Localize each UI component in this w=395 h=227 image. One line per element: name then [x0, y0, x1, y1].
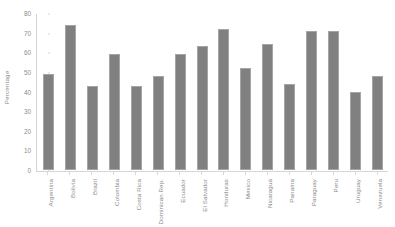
- x-axis-category-label: Paraguay: [311, 179, 317, 206]
- x-axis-tick-slot: [103, 172, 125, 176]
- x-axis-tick-slot: [278, 172, 300, 176]
- bars-layer: [38, 14, 388, 170]
- bar-slot: [126, 14, 148, 170]
- x-axis-tick-slot: [256, 172, 278, 176]
- bar[interactable]: [328, 31, 339, 170]
- x-axis-tick-slot: [213, 172, 235, 176]
- bar-slot: [257, 14, 279, 170]
- x-axis-category-label: Bolivia: [70, 179, 76, 198]
- x-axis-category-labels: ArgentinaBoliviaBrazilColombiaCosta Rica…: [37, 177, 388, 227]
- x-axis-category-label: Uruguay: [355, 179, 361, 203]
- x-axis-label-slot: Dominican Rep.: [147, 177, 169, 227]
- bar-slot: [60, 14, 82, 170]
- x-axis-category-label: Brazil: [92, 179, 98, 195]
- x-axis-tick-mark: [91, 172, 92, 175]
- x-axis-category-label: Venezuela: [377, 179, 383, 209]
- x-axis-label-slot: Nicaragua: [256, 177, 278, 227]
- bar-slot: [322, 14, 344, 170]
- bar[interactable]: [284, 84, 295, 170]
- x-axis-label-slot: Paraguay: [300, 177, 322, 227]
- x-axis-category-label: Colombia: [114, 179, 120, 206]
- x-axis-label-slot: Bolivia: [59, 177, 81, 227]
- x-axis-tick-mark: [289, 172, 290, 175]
- bar-slot: [38, 14, 60, 170]
- x-axis-label-slot: Brazil: [81, 177, 103, 227]
- x-axis-tick-slot: [169, 172, 191, 176]
- x-axis-tick-mark: [355, 172, 356, 175]
- y-axis-tick-label: 30: [24, 109, 31, 115]
- y-axis-tick-label: 60: [24, 50, 31, 56]
- y-axis-tick-label: 80: [24, 11, 31, 17]
- x-axis-label-slot: Venezuela: [366, 177, 388, 227]
- x-axis-category-label: Mexico: [245, 179, 251, 199]
- bar[interactable]: [240, 68, 251, 170]
- x-axis-tick-mark: [311, 172, 312, 175]
- bar[interactable]: [306, 31, 317, 170]
- x-axis-tick-mark: [135, 172, 136, 175]
- bar[interactable]: [87, 86, 98, 170]
- bar-slot: [169, 14, 191, 170]
- x-axis-label-slot: El Salvador: [191, 177, 213, 227]
- x-axis-tick-slot: [344, 172, 366, 176]
- x-axis-category-label: Ecuador: [180, 179, 186, 203]
- bar[interactable]: [65, 25, 76, 170]
- x-axis-tick-slot: [37, 172, 59, 176]
- bar-slot: [279, 14, 301, 170]
- x-axis-tick-mark: [179, 172, 180, 175]
- bar[interactable]: [153, 76, 164, 170]
- x-axis-category-label: El Salvador: [202, 179, 208, 212]
- bar[interactable]: [350, 92, 361, 171]
- y-axis-tick-label: 40: [24, 89, 31, 95]
- x-axis-tick-slot: [125, 172, 147, 176]
- x-axis-label-slot: Panama: [278, 177, 300, 227]
- x-axis-category-label: Honduras: [223, 179, 229, 207]
- bar-slot: [147, 14, 169, 170]
- x-axis-label-slot: Colombia: [103, 177, 125, 227]
- bar-slot: [82, 14, 104, 170]
- bar[interactable]: [131, 86, 142, 170]
- x-axis-tick-slot: [59, 172, 81, 176]
- x-axis-label-slot: Honduras: [213, 177, 235, 227]
- bar-slot: [344, 14, 366, 170]
- x-axis-tick-mark: [47, 172, 48, 175]
- x-axis-tick-mark: [201, 172, 202, 175]
- plot-area: [36, 14, 388, 172]
- x-axis-tick-marks: [37, 172, 388, 176]
- x-axis-tick-slot: [81, 172, 103, 176]
- x-axis-tick-mark: [333, 172, 334, 175]
- x-axis-label-slot: Peru: [322, 177, 344, 227]
- x-axis-tick-slot: [300, 172, 322, 176]
- y-axis-tick-label: 20: [24, 129, 31, 135]
- x-axis-category-label: Argentina: [48, 179, 54, 206]
- y-axis-title-label: Percentage: [4, 71, 11, 105]
- bar[interactable]: [109, 54, 120, 170]
- x-axis-tick-mark: [267, 172, 268, 175]
- x-axis-tick-mark: [113, 172, 114, 175]
- x-axis-tick-mark: [377, 172, 378, 175]
- bar-slot: [301, 14, 323, 170]
- x-axis-tick-mark: [245, 172, 246, 175]
- bar-slot: [104, 14, 126, 170]
- bar[interactable]: [197, 46, 208, 170]
- x-axis-category-label: Peru: [333, 179, 339, 192]
- x-axis-category-label: Panama: [289, 179, 295, 203]
- x-axis-tick-mark: [69, 172, 70, 175]
- bar[interactable]: [262, 44, 273, 170]
- y-axis-tick-label: 50: [24, 70, 31, 76]
- bar-slot: [366, 14, 388, 170]
- x-axis-label-slot: Argentina: [37, 177, 59, 227]
- x-axis-tick-slot: [191, 172, 213, 176]
- bar-chart: Percentage 01020304050607080 ArgentinaBo…: [0, 0, 395, 227]
- bar[interactable]: [43, 74, 54, 170]
- bar[interactable]: [372, 76, 383, 170]
- x-axis-tick-mark: [157, 172, 158, 175]
- x-axis-tick-slot: [366, 172, 388, 176]
- bar-slot: [191, 14, 213, 170]
- x-axis-category-label: Nicaragua: [267, 179, 273, 208]
- y-axis-tick-label: 0: [27, 168, 31, 174]
- bar[interactable]: [218, 29, 229, 170]
- y-axis-tick-labels: 01020304050607080: [14, 14, 34, 174]
- x-axis-category-label: Costa Rica: [136, 179, 142, 210]
- bar-slot: [235, 14, 257, 170]
- bar[interactable]: [175, 54, 186, 170]
